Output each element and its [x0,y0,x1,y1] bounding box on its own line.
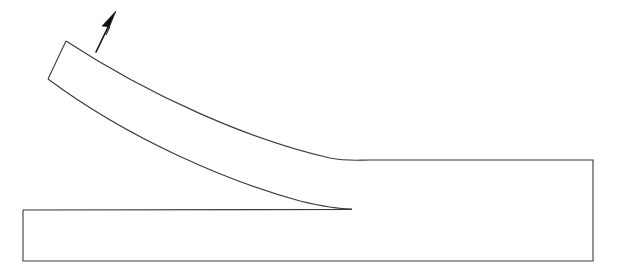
canvas-background [0,0,624,273]
diagram-canvas [0,0,624,273]
peel-diagram-figure [0,0,624,273]
